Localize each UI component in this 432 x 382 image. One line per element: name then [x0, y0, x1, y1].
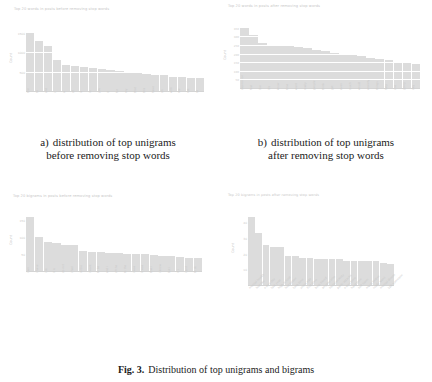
x-tick-label: i know — [158, 264, 162, 273]
chart-d-yticks: 10203040 — [237, 214, 247, 286]
x-tick-label: to the — [123, 264, 127, 273]
x-tick-label: not — [186, 84, 190, 93]
panel-b-caption-line1: b)distribution of top unigrams — [224, 136, 428, 149]
x-tick-label: want — [294, 81, 298, 90]
x-tick-label: to do — [193, 264, 197, 273]
chart-a-title: Top 20 words in posts before removing st… — [14, 7, 109, 11]
x-tick-label: in the — [79, 264, 83, 273]
gridline — [240, 79, 420, 80]
x-tick-label: of — [71, 84, 75, 93]
chart-b-ylabel: Count — [223, 50, 227, 60]
x-tick-label: this — [142, 84, 146, 93]
chart-d-title: Top 20 bigrams in posts after removing s… — [228, 193, 319, 197]
x-tick-label: me — [177, 84, 181, 93]
x-tick-label: a — [62, 84, 66, 93]
y-tick-label: 10 — [243, 268, 247, 272]
x-tick-label: i was — [132, 264, 136, 273]
chart-d-ylabel: Count — [231, 243, 235, 253]
y-tick-label: 40 — [243, 221, 247, 225]
chart-b-title: Top 20 words in posts after removing sto… — [228, 4, 320, 8]
panel-b-caption: b)distribution of top unigrams after rem… — [224, 136, 428, 162]
x-tick-label: know — [276, 81, 280, 90]
x-tick-label: my — [124, 84, 128, 93]
chart-a-yticks: 50010001500 — [15, 30, 25, 92]
x-tick-label: you — [97, 84, 101, 93]
x-tick-label: would — [357, 81, 361, 90]
x-tick-label: it was — [140, 264, 144, 273]
x-tick-label: depression — [240, 81, 244, 90]
x-tick-label: of the — [114, 264, 118, 273]
x-tick-label: think — [321, 81, 325, 90]
x-tick-label: it is — [52, 264, 56, 273]
x-tick-label: on — [160, 84, 164, 93]
chart-a: Top 20 words in posts before removing st… — [0, 0, 216, 130]
x-tick-label: feel — [249, 81, 253, 90]
panel-b-label: b) — [258, 136, 267, 148]
gridline — [240, 36, 420, 37]
x-tick-label: to be — [96, 264, 100, 273]
x-tick-label: for — [115, 84, 119, 93]
y-tick-label: 150 — [19, 219, 25, 223]
panel-c: Top 20 bigrams in posts before removing … — [0, 188, 216, 318]
x-tick-label: i want — [88, 264, 92, 273]
y-tick-label: 200 — [234, 53, 239, 57]
x-tick-label: like — [258, 81, 262, 90]
x-tick-label: i just — [184, 264, 188, 273]
x-tick-label: with — [169, 84, 173, 93]
panel-row-bottom: Top 20 bigrams in posts before removing … — [0, 188, 432, 318]
x-tick-label: get — [330, 81, 334, 90]
x-tick-label: really — [303, 81, 307, 90]
y-tick-label: 300 — [234, 35, 239, 39]
x-tick-label: i do — [44, 264, 48, 273]
y-tick-label: 350 — [234, 27, 239, 31]
y-tick-label: 1500 — [18, 32, 25, 36]
y-tick-label: 100 — [234, 70, 239, 74]
x-tick-label: i feel — [70, 264, 74, 273]
chart-c-yticks: 50100150 — [15, 214, 25, 272]
figure-number: Fig. 3. — [118, 364, 144, 375]
x-tick-label: in — [88, 84, 92, 93]
y-tick-label: 50 — [21, 253, 25, 257]
x-tick-label: that i — [149, 264, 153, 273]
x-tick-label: to — [35, 84, 39, 93]
x-tick-label: is — [79, 84, 83, 93]
panel-a-caption-line1: a)distribution of top unigrams — [6, 136, 210, 149]
chart-c: Top 20 bigrams in posts before removing … — [0, 188, 216, 318]
y-tick-label: 1000 — [18, 51, 25, 55]
chart-a-xlabels: thetoandiaofisinyouitformythatthishaveon… — [26, 93, 204, 97]
x-tick-label: even — [339, 81, 343, 90]
gridline — [240, 62, 420, 63]
x-tick-label: people — [312, 81, 316, 90]
chart-a-bars — [26, 30, 204, 92]
panel-row-top: Top 20 words in posts before removing st… — [0, 0, 432, 130]
x-tick-label: much — [348, 81, 352, 90]
figure-container: Top 20 words in posts before removing st… — [0, 0, 432, 382]
x-tick-label: going — [402, 81, 406, 90]
panel-a: Top 20 words in posts before removing st… — [0, 0, 216, 130]
x-tick-label: i — [53, 84, 57, 93]
x-tick-label: one — [393, 81, 397, 90]
chart-b-xlabels: depressionfeellikelifeknowtimewantreally… — [240, 90, 420, 94]
chart-a-plot: Count 50010001500 thetoandiaofisinyouitf… — [26, 30, 204, 92]
x-tick-label: help — [384, 81, 388, 90]
x-tick-label: day — [411, 81, 415, 90]
panel-b-caption-text1: distribution of top unigrams — [271, 136, 394, 148]
gridline — [240, 45, 420, 46]
figure-caption-text: Distribution of top unigrams and bigrams — [148, 364, 314, 375]
chart-d-bars — [248, 214, 394, 286]
y-tick-label: 150 — [234, 61, 239, 65]
x-tick-label: anxiety — [366, 81, 370, 90]
x-tick-label: i have — [35, 264, 39, 273]
chart-c-xlabels: i ami havei doit isdo noti feelin thei w… — [26, 273, 202, 277]
panel-b: Top 20 words in posts after removing sto… — [216, 0, 432, 130]
y-tick-label: 50 — [236, 78, 239, 82]
chart-b-plot: Count 50100150200250300350 depressionfee… — [240, 27, 420, 89]
x-tick-label: do not — [61, 264, 65, 273]
x-tick-label: have — [151, 84, 155, 93]
x-tick-label: it — [106, 84, 110, 93]
chart-c-plot: Count 50100150 i ami havei doit isdo not… — [26, 214, 202, 272]
x-tick-label: that — [133, 84, 137, 93]
panel-b-caption-line2: after removing stop words — [224, 149, 428, 162]
y-tick-label: 30 — [243, 237, 247, 241]
chart-c-title: Top 20 bigrams in posts before removing … — [13, 194, 112, 198]
